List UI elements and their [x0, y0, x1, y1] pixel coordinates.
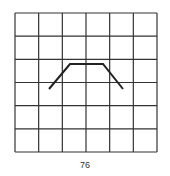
grid-diagram [0, 0, 170, 176]
grid-lines [15, 13, 157, 152]
figure-number: 76 [0, 160, 170, 170]
